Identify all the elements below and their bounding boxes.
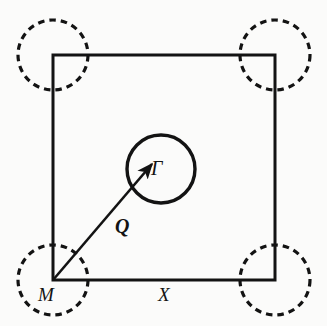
q-wavevector-arrow — [53, 164, 152, 280]
q-vector-label: Q — [115, 216, 129, 236]
gamma-point-label: Γ — [151, 158, 162, 178]
brillouin-zone-canvas — [0, 0, 327, 326]
brillouin-zone-boundary — [53, 55, 275, 280]
x-point-label: X — [158, 285, 170, 304]
m-point-label: M — [38, 285, 54, 304]
brillouin-zone-figure: Γ Q M X — [0, 0, 327, 326]
